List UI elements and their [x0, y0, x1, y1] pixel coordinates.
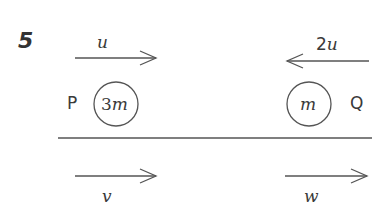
- label-2u-coef: 2: [316, 34, 327, 54]
- collision-diagram: 5 u 2u P 3m m Q v w: [0, 0, 389, 212]
- arrow-2u-left-icon: [287, 54, 369, 68]
- arrow-v-right-icon: [75, 169, 156, 183]
- label-2u: 2u: [316, 34, 338, 54]
- label-u: u: [97, 32, 108, 52]
- particle-p-mass: 3m: [101, 94, 128, 114]
- arrow-w-right-icon: [285, 169, 367, 183]
- particle-p-mass-sym: m: [112, 94, 128, 114]
- particle-p-mass-coef: 3: [101, 94, 112, 114]
- arrow-u-right-icon: [75, 51, 156, 65]
- particle-p-name: P: [67, 93, 77, 113]
- particle-q-mass-sym: m: [300, 94, 316, 114]
- question-number: 5: [18, 28, 33, 53]
- particle-q-name: Q: [350, 93, 363, 113]
- label-w: w: [304, 186, 319, 206]
- label-2u-sym: u: [327, 34, 338, 54]
- label-v: v: [102, 186, 112, 206]
